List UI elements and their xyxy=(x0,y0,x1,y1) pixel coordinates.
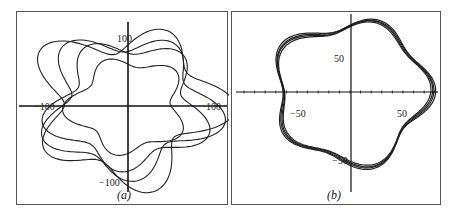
curve-loop2 xyxy=(277,20,434,168)
panel-b-xtick-50: 50 xyxy=(397,108,407,119)
panel-a-ytick-neg100: −100 xyxy=(99,177,120,188)
panel-b-curves xyxy=(276,19,436,169)
panel-b-xtick-neg50: −50 xyxy=(290,108,306,119)
panel-a-xtick-100: 100 xyxy=(206,101,221,112)
panel-b-ytick-50: 50 xyxy=(334,53,344,64)
panel-b-plot: 50 −50 −50 50 (b) xyxy=(231,11,441,205)
panel-a-curves xyxy=(38,29,229,192)
panel-a-ytick-100: 100 xyxy=(117,33,132,44)
panel-b-canvas: 50 −50 −50 50 xyxy=(232,12,442,206)
panel-a-plot: 100 −100 −100 100 (a) xyxy=(16,11,228,205)
curve-loop4 xyxy=(279,22,431,165)
panel-a-canvas: 100 −100 −100 100 xyxy=(17,12,229,206)
curve-loop3 xyxy=(276,19,436,169)
panel-b-label: (b) xyxy=(327,188,341,203)
panel-a-label: (a) xyxy=(117,188,131,203)
panel-b-ytick-neg50: −50 xyxy=(332,155,348,166)
curve-loop1 xyxy=(278,21,433,167)
panel-a-xtick-neg100: −100 xyxy=(34,101,55,112)
